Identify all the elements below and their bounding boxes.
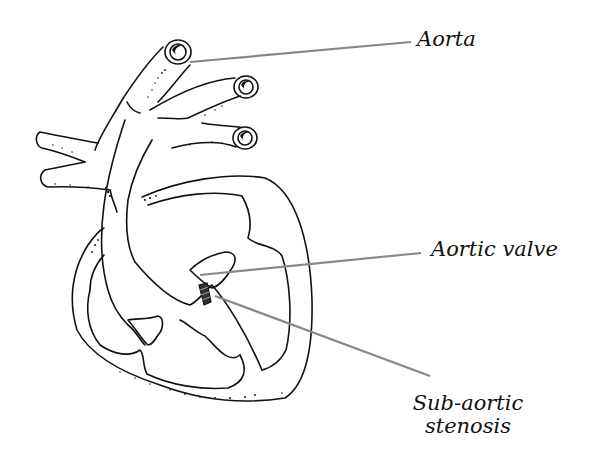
sub-aortic-stenosis-leader-line bbox=[215, 296, 430, 376]
septum bbox=[128, 262, 262, 370]
label-aorta: Aorta bbox=[417, 28, 476, 51]
label-sub-aortic-stenosis-line1: Sub-aortic bbox=[398, 392, 538, 415]
label-aortic-valve: Aortic valve bbox=[431, 238, 558, 261]
aorta-leader-line bbox=[190, 42, 411, 62]
label-sub-aortic-stenosis: Sub-aortic stenosis bbox=[398, 392, 538, 438]
brachiocephalic-branch bbox=[150, 76, 258, 119]
left-subclavian-branch bbox=[172, 123, 257, 149]
label-sub-aortic-stenosis-line2: stenosis bbox=[398, 415, 538, 438]
leader-lines bbox=[190, 42, 430, 376]
aortic-valve-shape bbox=[190, 252, 235, 288]
ascending-aorta bbox=[101, 102, 152, 325]
